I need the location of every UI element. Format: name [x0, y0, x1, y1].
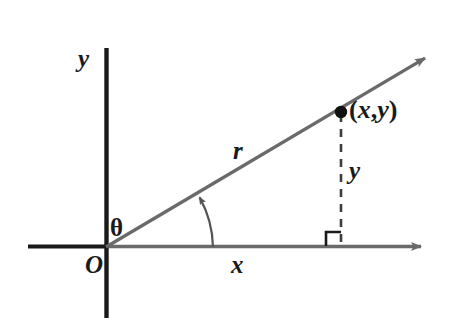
figure-canvas [0, 0, 459, 329]
theta-label: θ [110, 215, 123, 240]
terminal-ray [106, 58, 425, 247]
right-angle-marker [326, 232, 341, 246]
radius-label: r [233, 138, 243, 163]
paren-close: ) [389, 95, 398, 124]
paren-open: ( [349, 95, 358, 124]
angle-arc [200, 197, 213, 247]
x-axis-label: x [231, 252, 244, 277]
point-marker [335, 106, 347, 118]
origin-label: O [85, 252, 103, 277]
point-coordinates-label: (x,y) [349, 97, 397, 123]
side-y-label: y [349, 158, 360, 183]
point-x-label: x [358, 95, 371, 124]
polar-coordinate-figure: y O θ r x y (x,y) [0, 0, 459, 329]
point-y-label: y [377, 95, 389, 124]
y-axis-label: y [78, 46, 89, 71]
